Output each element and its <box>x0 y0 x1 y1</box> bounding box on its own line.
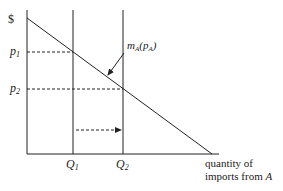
y-axis-label: $ <box>8 12 14 26</box>
curve-label-pointer-arrow <box>108 53 124 75</box>
curve-label: mA(pA) <box>127 39 157 53</box>
quantity-label-q2: Q2 <box>116 157 129 172</box>
price-label-p1: p1 <box>9 44 20 59</box>
import-demand-diagram: $ p1 p2 Q1 Q2 mA(pA) quantity of imports… <box>0 0 283 191</box>
quantity-label-q1: Q1 <box>66 157 79 172</box>
x-axis-label-line-2: imports from A <box>205 170 273 182</box>
price-label-p2: p2 <box>9 81 20 96</box>
x-axis-label-line-1: quantity of <box>205 157 253 169</box>
import-demand-curve <box>27 18 212 154</box>
